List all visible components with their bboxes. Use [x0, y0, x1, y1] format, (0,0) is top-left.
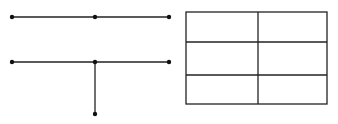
grid-border: [186, 12, 327, 104]
tree-diagram: [10, 15, 171, 116]
node-dot: [93, 60, 97, 64]
diagram-canvas: [0, 0, 338, 124]
grid-table: [186, 12, 327, 104]
node-dot: [10, 15, 14, 19]
node-dot: [167, 15, 171, 19]
node-dot: [10, 60, 14, 64]
node-dot: [93, 112, 97, 116]
node-dot: [167, 60, 171, 64]
node-dot: [93, 15, 97, 19]
